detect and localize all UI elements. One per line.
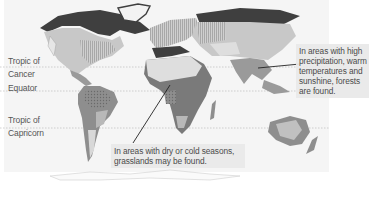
equator-label: Equator [8, 83, 37, 94]
africa [144, 56, 216, 134]
tropic-of-capricorn-label: Tropic of Capricorn [8, 115, 44, 139]
europe [150, 18, 200, 58]
new-zealand [306, 136, 318, 154]
map-graphic [0, 0, 369, 198]
forests-callout: In areas with high precipitation, warm t… [296, 44, 369, 98]
world-biome-map: Tropic of Cancer Equator Tropic of Capri… [0, 0, 369, 198]
grasslands-pointer-line [133, 85, 170, 143]
grasslands-callout: In areas with dry or cold seasons, grass… [111, 144, 245, 168]
tropic-of-cancer-label: Tropic of Cancer [8, 56, 40, 80]
antarctica [50, 170, 240, 180]
madagascar [210, 100, 216, 120]
australia [268, 116, 318, 154]
